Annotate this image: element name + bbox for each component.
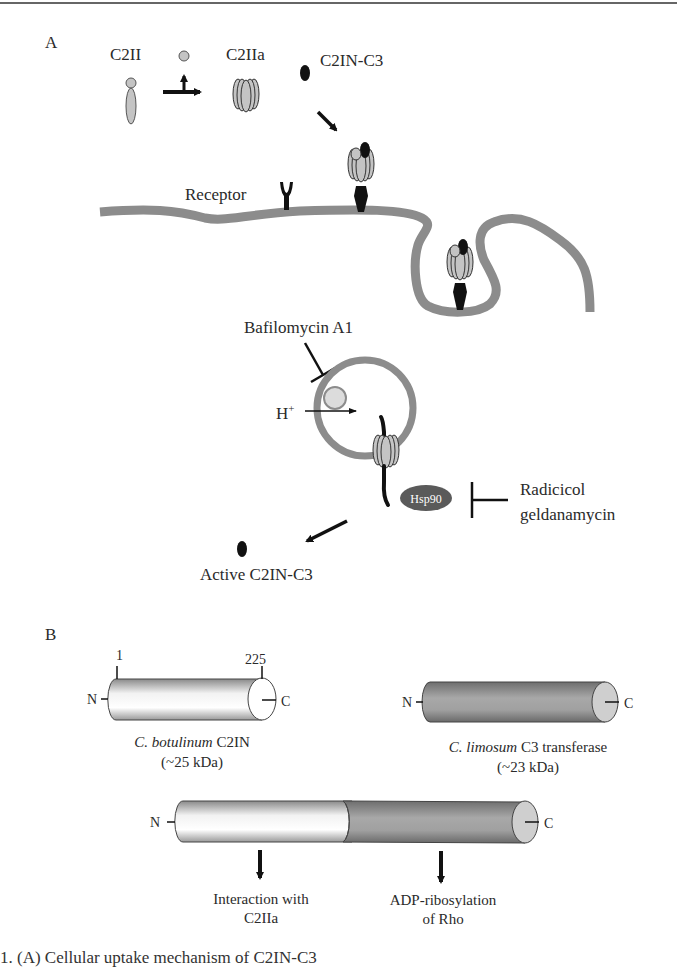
c2in-start-residue: 1 bbox=[116, 648, 123, 663]
c2in-mass: (~25 kDa) bbox=[161, 754, 223, 771]
c3-label: C. limosum C3 transferase bbox=[449, 739, 608, 755]
c2iia-heptamer-icon bbox=[233, 79, 259, 112]
release-arrow-icon bbox=[307, 521, 347, 541]
panel-a-label: A bbox=[45, 33, 58, 52]
fusion-right-function-line1: ADP-ribosylation bbox=[390, 892, 497, 908]
bound-pore-complex-icon bbox=[348, 142, 374, 212]
endocytosed-pore-complex-icon bbox=[447, 239, 473, 310]
c2in-c-terminus: C bbox=[281, 694, 290, 709]
label-c2ii: C2II bbox=[110, 45, 142, 64]
c2in-domain-cylinder bbox=[101, 666, 276, 720]
cell-membrane bbox=[100, 210, 590, 312]
fusion-left-function-line1: Interaction with bbox=[213, 891, 309, 907]
c2in-n-terminus: N bbox=[87, 692, 97, 707]
panel-b-label: B bbox=[45, 625, 56, 644]
receptor-icon bbox=[280, 182, 293, 210]
fusion-right-function-line2: of Rho bbox=[422, 911, 463, 927]
fusion-left-function-line2: C2IIa bbox=[244, 910, 278, 926]
c2in-c3-icon bbox=[300, 65, 310, 81]
c2ii-monomer-icon bbox=[126, 78, 136, 124]
c2in-end-residue: 225 bbox=[245, 652, 266, 667]
label-receptor: Receptor bbox=[185, 185, 247, 204]
fusion-c-terminus: C bbox=[544, 816, 553, 831]
c3-n-terminus: N bbox=[402, 695, 412, 710]
label-h-plus: H+ bbox=[276, 402, 295, 423]
endosomal-pore-translocation-icon bbox=[373, 417, 399, 505]
label-bafilomycin: Bafilomycin A1 bbox=[244, 318, 353, 337]
c2in-label: C. botulinum C2IN bbox=[134, 734, 250, 750]
label-hsp90: Hsp90 bbox=[410, 492, 441, 506]
figure-caption: 1. (A) Cellular uptake mechanism of C2IN… bbox=[0, 948, 317, 968]
hsp90-inhibition-icon bbox=[472, 482, 508, 518]
active-c2in-c3-icon bbox=[237, 541, 247, 557]
proton-pump-icon bbox=[324, 387, 346, 409]
label-c2in-c3: C2IN-C3 bbox=[320, 51, 383, 70]
fusion-protein-cylinder bbox=[167, 801, 539, 843]
label-active-c2in-c3: Active C2IN-C3 bbox=[200, 565, 313, 584]
c3-mass: (~23 kDa) bbox=[497, 759, 559, 776]
c3-domain-cylinder bbox=[416, 682, 619, 722]
c3-c-terminus: C bbox=[624, 696, 633, 711]
fusion-n-terminus: N bbox=[150, 815, 160, 830]
activation-arrow-icon bbox=[163, 51, 200, 92]
label-c2iia: C2IIa bbox=[226, 45, 265, 64]
binding-arrow-icon bbox=[318, 112, 336, 130]
label-geldanamycin: geldanamycin bbox=[520, 505, 616, 524]
label-radicicol: Radicicol bbox=[520, 480, 585, 499]
